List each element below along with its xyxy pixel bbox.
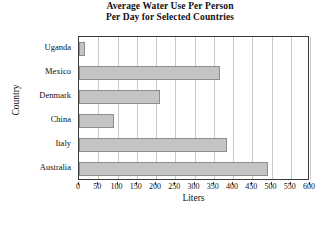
x-axis-tick-label: 100 [111, 182, 123, 191]
x-axis-tick-label: 0 [76, 182, 80, 191]
bar-series [79, 37, 308, 179]
x-axis-title: Liters [78, 193, 309, 203]
x-axis-tick-label: 450 [245, 182, 257, 191]
x-axis-tick-label: 600 [303, 182, 315, 191]
y-axis-tick-label: Denmark [39, 91, 71, 100]
x-axis-tick-label: 400 [226, 182, 238, 191]
x-axis-tick-label: 150 [130, 182, 142, 191]
bar [79, 138, 227, 152]
y-axis-tick-label: Mexico [45, 67, 71, 76]
y-axis-tick-label: Italy [55, 139, 71, 148]
chart-title-line-1: Average Water Use Per Person [70, 1, 270, 12]
x-axis-tick-label: 550 [284, 182, 296, 191]
x-axis-tick-labels: 050100150200250300350400450500550600 [78, 182, 309, 193]
bar [79, 162, 268, 176]
x-axis-tick-label: 250 [168, 182, 180, 191]
bar [79, 90, 160, 104]
bar [79, 66, 220, 80]
gridline [310, 37, 311, 179]
x-axis-tick-label: 200 [149, 182, 161, 191]
x-axis-tick-label: 350 [207, 182, 219, 191]
y-axis-tick-label: Australia [40, 163, 71, 172]
chart-title-line-2: Per Day for Selected Countries [70, 12, 270, 23]
y-axis-tick-label: China [51, 115, 71, 124]
chart-title: Average Water Use Per Person Per Day for… [70, 1, 270, 22]
x-axis-tick-label: 300 [188, 182, 200, 191]
x-axis-tick-label: 500 [265, 182, 277, 191]
bar-chart-figure: Average Water Use Per Person Per Day for… [0, 0, 319, 227]
x-axis-tick-label: 50 [93, 182, 101, 191]
plot-area [78, 36, 309, 180]
bar [79, 114, 114, 128]
bar [79, 42, 85, 56]
y-axis-tick-labels: UgandaMexicoDenmarkChinaItalyAustralia [0, 36, 75, 180]
y-axis-tick-label: Uganda [45, 43, 71, 52]
